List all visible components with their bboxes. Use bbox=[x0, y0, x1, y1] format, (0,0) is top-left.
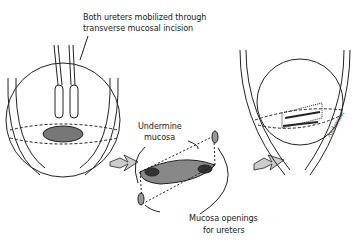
top-label-line2: transverse mucosal incision bbox=[83, 23, 193, 34]
openings-label-line2: for ureters bbox=[203, 225, 245, 236]
openings-label-line1: Mucosa openings bbox=[189, 213, 258, 224]
top-label-line1: Both ureters mobilized through bbox=[83, 12, 206, 23]
right-bladder-panel bbox=[240, 50, 350, 175]
flow-arrow-1 bbox=[110, 155, 138, 171]
undermine-label-line2: mucosa bbox=[144, 132, 175, 143]
left-bladder-panel bbox=[6, 36, 120, 177]
undermine-label-line1: Undermine bbox=[138, 121, 182, 132]
center-mucosa bbox=[135, 131, 228, 214]
signature: Anderson bbox=[324, 110, 345, 140]
